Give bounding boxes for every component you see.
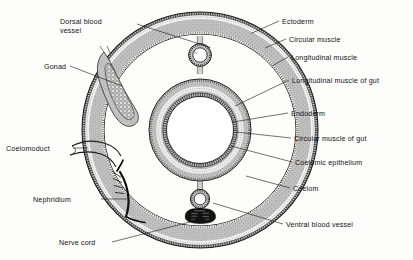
gut-lumen [167, 97, 233, 163]
label-circular-muscle-of-gut: Circular muscle of gut [294, 135, 367, 143]
annelid-cross-section-diagram: Dorsal blood vessel Gonad Coelomoduct Ne… [0, 0, 413, 260]
label-ectoderm: Ectoderm [282, 18, 314, 26]
label-nephridium: Nephridium [33, 196, 71, 204]
nerve-cord [185, 209, 215, 224]
label-nerve-cord: Nerve cord [59, 239, 96, 247]
dorsal-blood-vessel [189, 44, 212, 67]
label-coelomic-epithelium: Coelomic epithelium [295, 159, 362, 167]
label-longitudinal-muscle-of-gut: Longitudinal muscle of gut [292, 77, 379, 85]
label-ventral-blood-vessel: Ventral blood vessel [286, 221, 353, 229]
label-longitudinal-muscle: Longitudinal muscle [291, 54, 357, 62]
figure-page: Dorsal blood vessel Gonad Coelomoduct Ne… [0, 0, 413, 260]
label-coelomoduct: Coelomoduct [6, 145, 50, 153]
gut-ring [149, 79, 251, 181]
label-dorsal-blood-vessel: Dorsal blood [60, 18, 102, 26]
label-gonad: Gonad [44, 63, 66, 71]
label-circular-muscle: Circular muscle [289, 36, 341, 44]
label-dorsal-blood-vessel-line2: vessel [60, 27, 81, 35]
ventral-blood-vessel [190, 189, 209, 208]
dorsal-blood-vessel-lumen [193, 48, 207, 62]
ventral-blood-vessel-lumen [194, 193, 206, 205]
label-endoderm: Endoderm [291, 110, 325, 118]
label-coelom: Coelom [293, 185, 319, 193]
